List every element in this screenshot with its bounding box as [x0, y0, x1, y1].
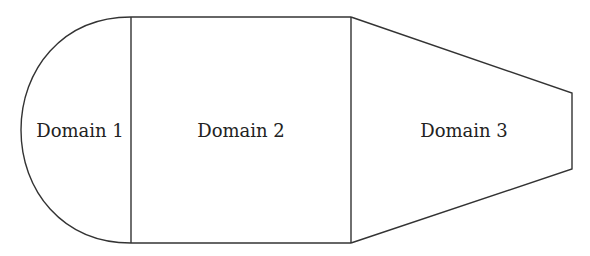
domain-2-label: Domain 2 — [197, 120, 285, 141]
domain-1: Domain 1 — [21, 17, 131, 243]
domain-2: Domain 2 — [131, 17, 351, 243]
domain-1-label: Domain 1 — [36, 120, 124, 141]
domain-diagram: Domain 1 Domain 2 Domain 3 — [0, 0, 590, 256]
domain-3: Domain 3 — [351, 17, 572, 243]
domain-3-label: Domain 3 — [420, 120, 508, 141]
